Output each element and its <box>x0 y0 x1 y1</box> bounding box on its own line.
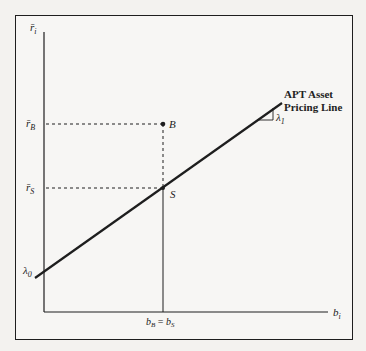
point-b-label: B <box>169 118 176 130</box>
rb-label: r̄B <box>26 117 35 132</box>
apt-pricing-line <box>35 103 282 278</box>
apt-title-line1: APT Asset <box>284 88 333 100</box>
apt-diagram: r̄i r̄B r̄S B S λ0 λ1 APT Asset Pricing … <box>0 0 366 351</box>
lambda0-label: λ0 <box>22 264 32 279</box>
x-axis-label: bi <box>333 306 341 321</box>
lambda1-label: λ1 <box>275 111 285 126</box>
point-s-label: S <box>170 188 176 200</box>
point-s-marker <box>161 186 165 190</box>
rs-label: r̄S <box>26 181 34 196</box>
x-tick-label: bB = bS <box>146 316 175 329</box>
apt-title-line2: Pricing Line <box>284 101 342 113</box>
point-b-marker <box>161 122 166 127</box>
y-axis-label: r̄i <box>30 21 37 36</box>
